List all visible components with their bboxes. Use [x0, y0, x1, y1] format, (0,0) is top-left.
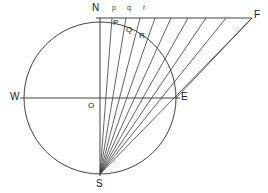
label-top-p: p	[112, 4, 116, 11]
ray-s-to-top-8	[100, 18, 226, 174]
ray-s-to-top-4	[100, 18, 155, 174]
label-origin: O	[88, 102, 94, 110]
label-east: E	[181, 92, 188, 102]
ray-s-to-top-7	[100, 18, 206, 174]
label-arc-p: P	[113, 19, 118, 27]
ray-s-to-far-point	[100, 18, 252, 174]
label-top-q: q	[127, 4, 131, 11]
label-arc-q: Q	[126, 26, 132, 34]
label-south: S	[96, 179, 103, 189]
label-west: W	[10, 92, 19, 102]
geometry-drawing	[0, 0, 268, 193]
ray-s-to-top-5	[100, 18, 171, 174]
label-top-r: r	[143, 4, 145, 11]
label-arc-r: R	[139, 32, 145, 40]
diagram-canvas: N p q r F P Q R W E O S	[0, 0, 268, 193]
label-far-point: F	[254, 10, 260, 20]
label-north: N	[92, 3, 99, 13]
